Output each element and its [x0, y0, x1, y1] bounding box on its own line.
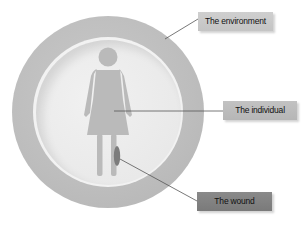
wound-mark-icon — [114, 146, 120, 166]
label-individual: The individual — [223, 101, 297, 120]
female-figure-icon — [84, 48, 132, 177]
label-environment: The environment — [198, 12, 273, 31]
label-wound: The wound — [197, 192, 272, 211]
